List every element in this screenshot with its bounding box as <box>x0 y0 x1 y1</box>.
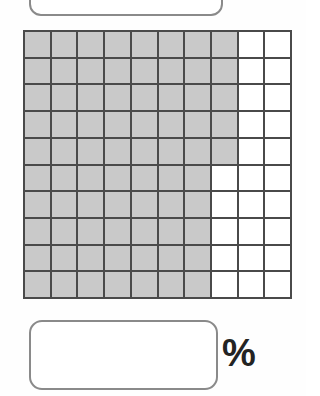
grid-cell-r9-c10[interactable] <box>265 246 292 273</box>
bottom-answer-box[interactable] <box>29 320 218 390</box>
grid-cell-r6-c7[interactable] <box>185 166 212 193</box>
grid-cell-r5-c3[interactable] <box>78 139 105 166</box>
grid-cell-r7-c5[interactable] <box>132 192 159 219</box>
grid-cell-r7-c6[interactable] <box>159 192 186 219</box>
grid-cell-r3-c9[interactable] <box>239 85 266 112</box>
grid-cell-r3-c4[interactable] <box>105 85 132 112</box>
grid-cell-r4-c1[interactable] <box>25 112 52 139</box>
grid-cell-r9-c2[interactable] <box>52 246 79 273</box>
grid-cell-r5-c9[interactable] <box>239 139 266 166</box>
grid-cell-r1-c1[interactable] <box>25 32 52 59</box>
grid-cell-r4-c10[interactable] <box>265 112 292 139</box>
grid-cell-r5-c8[interactable] <box>212 139 239 166</box>
grid-cell-r3-c2[interactable] <box>52 85 79 112</box>
grid-cell-r2-c2[interactable] <box>52 59 79 86</box>
grid-cell-r8-c7[interactable] <box>185 219 212 246</box>
grid-cell-r10-c1[interactable] <box>25 272 52 299</box>
grid-cell-r2-c9[interactable] <box>239 59 266 86</box>
grid-cell-r4-c6[interactable] <box>159 112 186 139</box>
grid-cell-r5-c5[interactable] <box>132 139 159 166</box>
grid-cell-r6-c6[interactable] <box>159 166 186 193</box>
grid-cell-r10-c8[interactable] <box>212 272 239 299</box>
top-answer-input[interactable] <box>31 0 221 14</box>
grid-cell-r4-c5[interactable] <box>132 112 159 139</box>
grid-cell-r7-c7[interactable] <box>185 192 212 219</box>
grid-cell-r10-c3[interactable] <box>78 272 105 299</box>
grid-cell-r1-c7[interactable] <box>185 32 212 59</box>
grid-cell-r1-c4[interactable] <box>105 32 132 59</box>
grid-cell-r8-c2[interactable] <box>52 219 79 246</box>
grid-cell-r2-c4[interactable] <box>105 59 132 86</box>
grid-cell-r3-c1[interactable] <box>25 85 52 112</box>
grid-cell-r2-c8[interactable] <box>212 59 239 86</box>
grid-cell-r8-c3[interactable] <box>78 219 105 246</box>
grid-cell-r9-c6[interactable] <box>159 246 186 273</box>
grid-cell-r5-c4[interactable] <box>105 139 132 166</box>
grid-cell-r9-c3[interactable] <box>78 246 105 273</box>
grid-cell-r2-c6[interactable] <box>159 59 186 86</box>
grid-cell-r2-c3[interactable] <box>78 59 105 86</box>
grid-cell-r6-c4[interactable] <box>105 166 132 193</box>
grid-cell-r9-c7[interactable] <box>185 246 212 273</box>
grid-cell-r2-c10[interactable] <box>265 59 292 86</box>
top-answer-box[interactable] <box>29 0 223 16</box>
grid-cell-r10-c2[interactable] <box>52 272 79 299</box>
grid-cell-r4-c8[interactable] <box>212 112 239 139</box>
grid-cell-r4-c2[interactable] <box>52 112 79 139</box>
grid-cell-r5-c2[interactable] <box>52 139 79 166</box>
grid-cell-r7-c8[interactable] <box>212 192 239 219</box>
grid-cell-r9-c4[interactable] <box>105 246 132 273</box>
grid-cell-r6-c3[interactable] <box>78 166 105 193</box>
grid-cell-r6-c1[interactable] <box>25 166 52 193</box>
grid-cell-r8-c10[interactable] <box>265 219 292 246</box>
grid-cell-r4-c9[interactable] <box>239 112 266 139</box>
grid-cell-r3-c8[interactable] <box>212 85 239 112</box>
grid-cell-r1-c2[interactable] <box>52 32 79 59</box>
grid-cell-r5-c1[interactable] <box>25 139 52 166</box>
grid-cell-r6-c5[interactable] <box>132 166 159 193</box>
grid-cell-r9-c1[interactable] <box>25 246 52 273</box>
grid-cell-r3-c10[interactable] <box>265 85 292 112</box>
grid-cell-r7-c10[interactable] <box>265 192 292 219</box>
grid-cell-r9-c9[interactable] <box>239 246 266 273</box>
grid-cell-r9-c5[interactable] <box>132 246 159 273</box>
grid-cell-r8-c4[interactable] <box>105 219 132 246</box>
grid-cell-r1-c6[interactable] <box>159 32 186 59</box>
grid-cell-r3-c6[interactable] <box>159 85 186 112</box>
grid-cell-r6-c10[interactable] <box>265 166 292 193</box>
grid-cell-r3-c3[interactable] <box>78 85 105 112</box>
grid-cell-r2-c5[interactable] <box>132 59 159 86</box>
grid-cell-r4-c7[interactable] <box>185 112 212 139</box>
grid-cell-r8-c9[interactable] <box>239 219 266 246</box>
grid-cell-r10-c4[interactable] <box>105 272 132 299</box>
grid-cell-r9-c8[interactable] <box>212 246 239 273</box>
grid-cell-r8-c8[interactable] <box>212 219 239 246</box>
grid-cell-r1-c3[interactable] <box>78 32 105 59</box>
grid-cell-r1-c9[interactable] <box>239 32 266 59</box>
grid-cell-r7-c1[interactable] <box>25 192 52 219</box>
grid-cell-r1-c10[interactable] <box>265 32 292 59</box>
grid-cell-r10-c9[interactable] <box>239 272 266 299</box>
grid-cell-r10-c6[interactable] <box>159 272 186 299</box>
grid-cell-r8-c1[interactable] <box>25 219 52 246</box>
grid-cell-r5-c10[interactable] <box>265 139 292 166</box>
grid-cell-r5-c6[interactable] <box>159 139 186 166</box>
grid-cell-r5-c7[interactable] <box>185 139 212 166</box>
grid-cell-r4-c3[interactable] <box>78 112 105 139</box>
bottom-answer-input[interactable] <box>31 322 216 388</box>
grid-cell-r6-c8[interactable] <box>212 166 239 193</box>
grid-cell-r8-c6[interactable] <box>159 219 186 246</box>
grid-cell-r2-c7[interactable] <box>185 59 212 86</box>
grid-cell-r10-c7[interactable] <box>185 272 212 299</box>
grid-cell-r6-c2[interactable] <box>52 166 79 193</box>
grid-cell-r7-c2[interactable] <box>52 192 79 219</box>
grid-cell-r10-c5[interactable] <box>132 272 159 299</box>
grid-cell-r7-c9[interactable] <box>239 192 266 219</box>
grid-cell-r8-c5[interactable] <box>132 219 159 246</box>
grid-cell-r4-c4[interactable] <box>105 112 132 139</box>
grid-cell-r6-c9[interactable] <box>239 166 266 193</box>
grid-cell-r10-c10[interactable] <box>265 272 292 299</box>
grid-cell-r3-c5[interactable] <box>132 85 159 112</box>
grid-cell-r3-c7[interactable] <box>185 85 212 112</box>
grid-cell-r7-c3[interactable] <box>78 192 105 219</box>
